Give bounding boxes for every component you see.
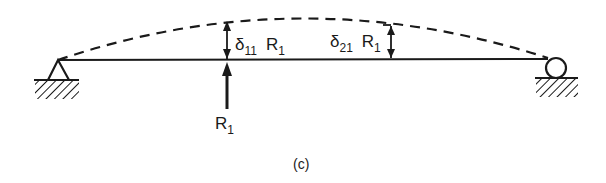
delta21-dimension-arrow-icon bbox=[383, 25, 395, 58]
figure-caption: (c) bbox=[293, 156, 309, 172]
deflected-shape-curve bbox=[58, 18, 548, 60]
pin-support-icon bbox=[34, 60, 79, 99]
roller-support-icon bbox=[535, 58, 578, 97]
reaction-label: R1 bbox=[215, 114, 234, 137]
delta11-label: δ11R1 bbox=[235, 35, 285, 58]
reaction-force-arrow-icon bbox=[222, 62, 232, 109]
delta21-label: δ21R1 bbox=[330, 32, 381, 55]
beam-diagram: δ11R1 δ21R1 R1 (c) bbox=[0, 0, 606, 183]
delta11-dimension-arrow-icon bbox=[223, 21, 231, 59]
beam bbox=[58, 59, 548, 60]
